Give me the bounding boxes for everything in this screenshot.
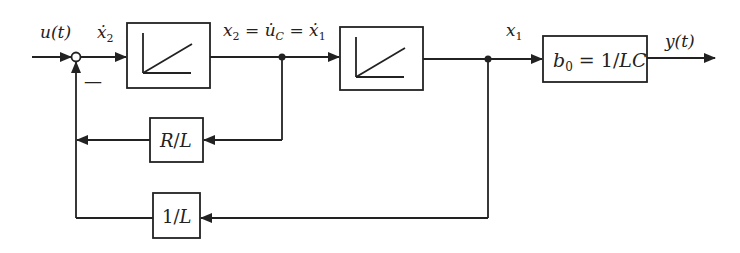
diagram-svg: u(t) ẋ2 — x2 = u̇C = ẋ1 x1 y(t) b0 = 1/L… [0,0,740,253]
label-y: y(t) [664,31,695,51]
label-u: u(t) [40,22,71,42]
integrator-2-ramp-icon [356,37,405,77]
summing-junction [72,53,81,62]
label-b0: b0 = 1/LC [553,49,647,74]
integrator-2-block [340,27,423,90]
label-minus: — [84,71,102,92]
branch-node-x1 [485,56,492,63]
branch-node-x2 [279,54,286,61]
label-x1: x1 [506,20,523,43]
label-x2dot: ẋ2 [97,22,114,45]
label-1-over-l: 1/L [162,206,191,227]
label-r-over-l: R/L [159,130,192,151]
label-x2-equation: x2 = u̇C = ẋ1 [223,20,326,43]
integrator-1-block [127,23,210,88]
integrator-1-ramp-icon [143,33,192,73]
block-diagram: u(t) ẋ2 — x2 = u̇C = ẋ1 x1 y(t) b0 = 1/L… [0,0,740,253]
